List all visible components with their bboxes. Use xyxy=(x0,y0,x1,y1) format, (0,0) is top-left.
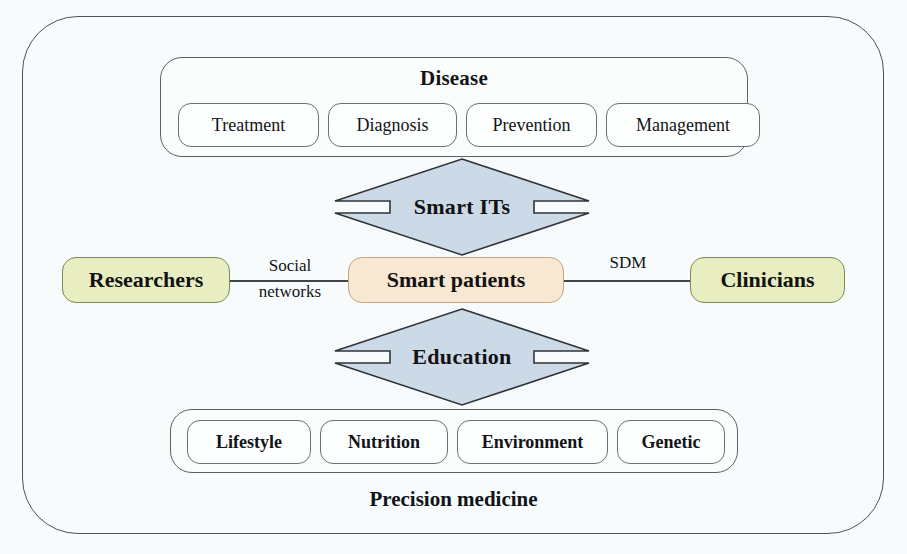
smart-its-double-arrow: Smart ITs xyxy=(333,157,591,257)
disease-group: Disease Treatment Diagnosis Prevention M… xyxy=(160,57,748,157)
actor-researchers[interactable]: Researchers xyxy=(62,257,230,303)
disease-item-diagnosis[interactable]: Diagnosis xyxy=(328,103,457,147)
edge-label-social-networks-line2: networks xyxy=(240,282,340,302)
precision-item-lifestyle[interactable]: Lifestyle xyxy=(187,420,311,464)
disease-item-prevention[interactable]: Prevention xyxy=(466,103,597,147)
actor-smart-patients[interactable]: Smart patients xyxy=(348,257,564,303)
disease-item-management[interactable]: Management xyxy=(606,103,760,147)
actor-clinicians[interactable]: Clinicians xyxy=(690,257,845,303)
disease-item-treatment[interactable]: Treatment xyxy=(178,103,319,147)
precision-medicine-group: Lifestyle Nutrition Environment Genetic xyxy=(170,409,738,473)
edge-label-sdm: SDM xyxy=(578,253,678,273)
education-double-arrow: Education xyxy=(333,307,591,407)
precision-item-environment[interactable]: Environment xyxy=(457,420,608,464)
edge-label-social-networks-line1: Social xyxy=(246,256,334,276)
connector-patients-clinicians xyxy=(564,280,690,282)
disease-group-title: Disease xyxy=(161,66,747,91)
precision-medicine-caption: Precision medicine xyxy=(0,487,907,512)
diagram-canvas: Disease Treatment Diagnosis Prevention M… xyxy=(0,0,907,554)
precision-item-genetic[interactable]: Genetic xyxy=(617,420,725,464)
precision-item-nutrition[interactable]: Nutrition xyxy=(320,420,448,464)
